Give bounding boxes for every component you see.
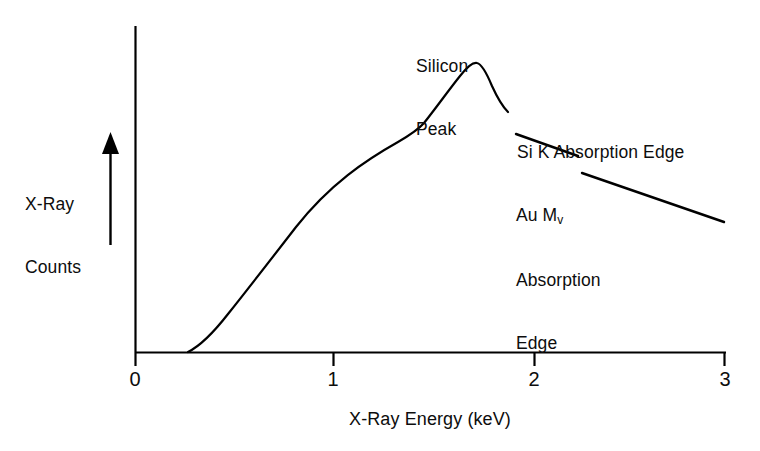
annotation-au-mv-absorption-edge: Au Mv Absorption Edge xyxy=(516,163,601,396)
spectrum-plot-svg xyxy=(0,0,760,451)
xray-spectrum-figure: Silicon Peak Si K Absorption Edge Au Mv … xyxy=(0,0,760,451)
annotation-si-k-absorption-edge-text: Si K Absorption Edge xyxy=(517,142,684,163)
y-axis-title: X-Ray Counts xyxy=(25,152,81,320)
annotation-au-mv-subscript: v xyxy=(557,213,563,227)
x-tick-label-3: 3 xyxy=(705,368,745,391)
y-axis-title-line1: X-Ray xyxy=(25,194,81,215)
annotation-silicon-peak-line2: Peak xyxy=(416,119,468,140)
annotation-au-mv-line3: Edge xyxy=(516,333,601,354)
y-axis-title-line2: Counts xyxy=(25,257,81,278)
y-axis-up-arrow xyxy=(102,132,119,245)
x-tick-label-0: 0 xyxy=(115,368,155,391)
x-tick-label-2: 2 xyxy=(514,368,554,391)
x-tick-label-1: 1 xyxy=(313,368,353,391)
annotation-au-mv-line2: Absorption xyxy=(516,270,601,291)
annotation-au-mv-line1: Au Mv xyxy=(516,205,601,228)
annotation-au-mv-prefix: Au M xyxy=(516,205,557,225)
annotation-silicon-peak-line1: Silicon xyxy=(416,56,468,77)
x-axis-title: X-Ray Energy (keV) xyxy=(135,409,725,430)
annotation-silicon-peak: Silicon Peak xyxy=(416,14,468,182)
